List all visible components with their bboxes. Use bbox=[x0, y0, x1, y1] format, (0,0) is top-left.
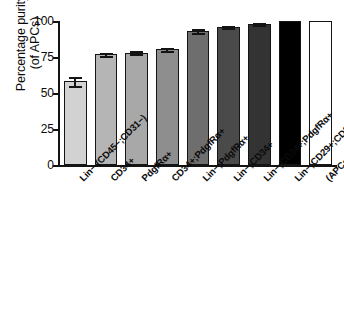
x-axis-category-label[interactable]: Lin−;CD29+;CD34+;Sca+ bbox=[292, 176, 300, 184]
error-bar-cap bbox=[69, 77, 82, 79]
y-axis-tick-label: 25 bbox=[28, 122, 54, 136]
bar[interactable] bbox=[156, 49, 179, 165]
y-axis-tick-mark bbox=[53, 21, 58, 23]
x-axis-category-label[interactable]: (APCs) Lin−;CD29+;CD34+;Sca1+;PdgfRα+ bbox=[323, 176, 331, 184]
x-axis-category-label[interactable]: CD34+ bbox=[108, 176, 116, 184]
error-bar-cap bbox=[100, 53, 113, 55]
y-axis-tick-label: 0 bbox=[28, 158, 54, 172]
error-bar-cap bbox=[161, 48, 174, 50]
bar[interactable] bbox=[125, 53, 148, 165]
x-axis-category-label[interactable]: CD34+;PdgfRα+ bbox=[169, 176, 177, 184]
y-axis-tick-mark bbox=[53, 93, 58, 95]
x-axis-category-label[interactable]: Lin−;PdgfRα+ bbox=[200, 176, 208, 184]
y-axis-tick-label: 75 bbox=[28, 50, 54, 64]
error-bar-cap bbox=[130, 54, 143, 56]
y-axis-tick-mark bbox=[53, 165, 58, 167]
error-bar-cap bbox=[192, 33, 205, 35]
y-axis-tick-labels: 0255075100 bbox=[26, 0, 54, 331]
error-bar-cap bbox=[192, 29, 205, 31]
x-axis-category-label[interactable]: PdgfRα+ bbox=[139, 176, 147, 184]
y-axis-tick-mark bbox=[53, 129, 58, 131]
x-axis-category-label[interactable]: Lin−;CD34+ bbox=[231, 176, 239, 184]
x-axis-category-label[interactable]: Lin− (CD45−;CD31−) bbox=[77, 176, 85, 184]
error-bar-cap bbox=[161, 51, 174, 53]
bar-chart-figure: Percentage purity (of APCs) 0255075100 L… bbox=[0, 0, 344, 331]
error-bar-cap bbox=[100, 56, 113, 58]
y-axis-tick-label: 100 bbox=[28, 14, 54, 28]
y-axis-tick-label: 50 bbox=[28, 86, 54, 100]
error-bar-cap bbox=[222, 28, 235, 30]
error-bar-cap bbox=[69, 86, 82, 88]
error-bar-cap bbox=[253, 25, 266, 27]
bar[interactable] bbox=[64, 81, 87, 165]
y-axis-tick-mark bbox=[53, 57, 58, 59]
x-axis-category-label[interactable]: Lin−;CD34+;PdgfRα+ bbox=[261, 176, 269, 184]
error-bar-cap bbox=[130, 51, 143, 53]
